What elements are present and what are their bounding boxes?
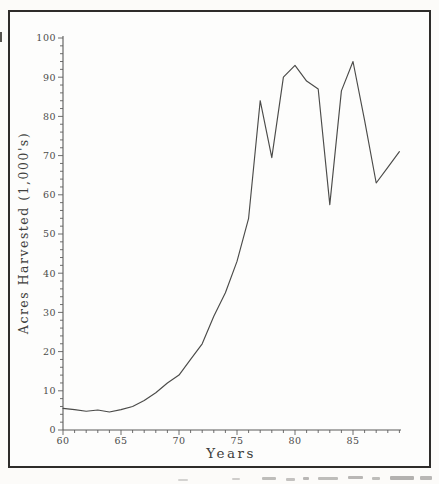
left-edge-scan-artifact — [0, 32, 2, 42]
svg-text:90: 90 — [43, 72, 56, 83]
cropped-caption-fragment — [0, 474, 439, 484]
chart-tick-labels: 0102030405060708090100606570758085 — [36, 32, 359, 446]
svg-text:80: 80 — [288, 435, 301, 446]
acres-harvested-series — [63, 62, 399, 413]
svg-text:60: 60 — [56, 435, 69, 446]
x-axis-title: Years — [205, 445, 256, 461]
svg-text:85: 85 — [346, 435, 359, 446]
svg-text:50: 50 — [43, 228, 56, 239]
svg-text:70: 70 — [43, 150, 56, 161]
svg-text:70: 70 — [172, 435, 185, 446]
svg-text:10: 10 — [43, 385, 56, 396]
svg-text:20: 20 — [43, 346, 56, 357]
svg-text:65: 65 — [114, 435, 127, 446]
figure-scan: 0102030405060708090100606570758085 Years… — [0, 0, 439, 484]
chart-axes — [63, 36, 401, 430]
chart-ticks — [58, 38, 399, 435]
y-axis-title: Acres Harvested (1,000's) — [16, 132, 31, 335]
svg-text:80: 80 — [43, 111, 56, 122]
svg-text:60: 60 — [43, 189, 56, 200]
svg-text:0: 0 — [49, 424, 56, 435]
svg-text:100: 100 — [36, 32, 56, 43]
svg-text:30: 30 — [43, 307, 56, 318]
svg-text:40: 40 — [43, 268, 56, 279]
acres-harvested-line-chart: 0102030405060708090100606570758085 Years… — [0, 0, 439, 484]
